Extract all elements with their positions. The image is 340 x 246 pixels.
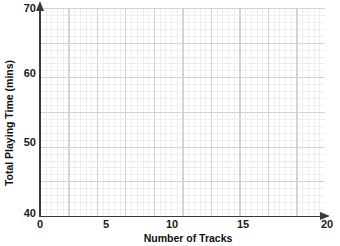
y-axis-title: Total Playing Time (mins) <box>2 0 20 246</box>
x-tick-label-0: 0 <box>33 219 47 230</box>
y-axis-line <box>39 10 41 217</box>
x-tick-label-15: 15 <box>234 219 252 230</box>
y-axis-arrow-icon <box>36 1 44 11</box>
y-tick-label-40: 40 <box>18 208 36 219</box>
y-tick-label-70: 70 <box>18 3 36 14</box>
x-tick-label-10: 10 <box>163 219 181 230</box>
chart-container: 70 60 50 40 0 5 10 15 20 Number of Track… <box>0 0 340 246</box>
x-tick-label-5: 5 <box>99 219 113 230</box>
y-tick-label-50: 50 <box>18 137 36 148</box>
y-tick-label-60: 60 <box>18 68 36 79</box>
x-tick-label-20: 20 <box>318 219 336 230</box>
x-axis-line <box>40 216 322 218</box>
plot-area-grid <box>40 8 325 216</box>
x-axis-title: Number of Tracks <box>0 232 340 244</box>
